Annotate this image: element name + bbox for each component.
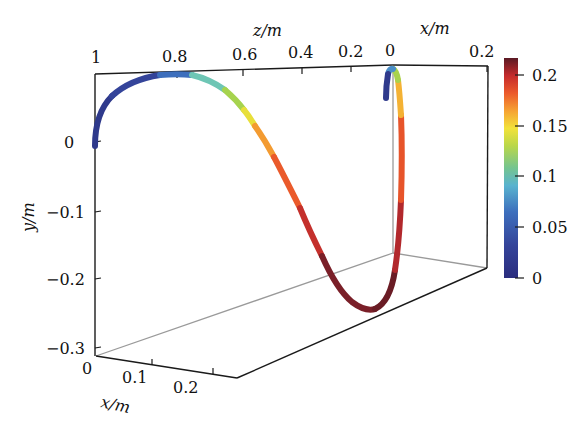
svg-text:0: 0: [64, 133, 74, 152]
svg-text:0.4: 0.4: [288, 43, 313, 62]
x-axis-label-top: x/m: [420, 19, 450, 38]
z-tick-labels: 1 0.8 0.6 0.4 0.2: [91, 42, 363, 67]
front-box-lines: [95, 65, 488, 378]
x-axis-label-bottom: x/m: [99, 392, 132, 417]
svg-text:0: 0: [82, 359, 92, 378]
svg-text:0.2: 0.2: [469, 42, 494, 61]
3d-line-plot: 1 0.8 0.6 0.4 0.2 0 0.2 z/m x/m y/m x/m …: [0, 0, 579, 431]
back-box-lines: [96, 66, 487, 356]
svg-text:0.15: 0.15: [532, 117, 568, 136]
trajectory-curve: [95, 69, 402, 310]
y-tick-labels: 0 −0.1 −0.2 −0.3: [46, 133, 85, 358]
svg-text:0.1: 0.1: [532, 167, 557, 186]
svg-text:0: 0: [385, 41, 395, 60]
y-axis-label: y/m: [19, 202, 38, 233]
svg-text:0.8: 0.8: [162, 47, 187, 66]
svg-text:0.6: 0.6: [232, 45, 257, 64]
z-axis-ticks: [177, 66, 487, 78]
svg-text:0.2: 0.2: [532, 66, 557, 85]
svg-text:−0.3: −0.3: [46, 339, 85, 358]
x-bottom-tick-labels: 0 0.1 0.2: [82, 359, 198, 397]
y-axis-ticks: [95, 141, 101, 348]
svg-text:0.2: 0.2: [173, 378, 198, 397]
svg-text:1: 1: [91, 48, 101, 67]
colorbar: 0.2 0.15 0.1 0.05 0: [504, 58, 568, 288]
svg-text:0: 0: [532, 269, 542, 288]
svg-text:0.2: 0.2: [338, 42, 363, 61]
svg-text:−0.1: −0.1: [46, 203, 85, 222]
x-top-tick-labels: 0 0.2: [385, 41, 494, 61]
svg-text:−0.2: −0.2: [46, 270, 85, 289]
z-axis-label: z/m: [252, 21, 282, 40]
svg-text:0.05: 0.05: [532, 218, 568, 237]
svg-text:0.1: 0.1: [122, 368, 147, 387]
